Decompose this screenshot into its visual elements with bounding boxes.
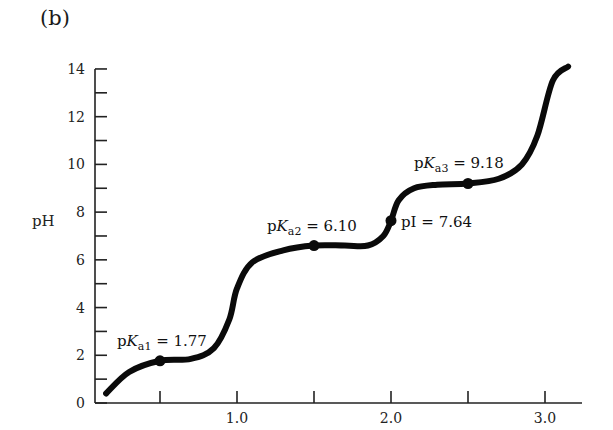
y-tick-label: 4 — [76, 300, 85, 316]
titration-chart: 02468101214 1.02.03.0 pH pKa1 = 1.77pKa2… — [0, 0, 613, 430]
annotation-label: pI = 7.64 — [401, 213, 472, 231]
x-tick-label: 1.0 — [226, 410, 248, 426]
y-axis — [95, 69, 107, 403]
key-point-marker — [155, 355, 166, 366]
annotation-label: pKa1 = 1.77 — [117, 332, 207, 353]
key-point-marker — [463, 178, 474, 189]
y-tick-label: 8 — [76, 204, 85, 220]
y-tick-label: 14 — [67, 61, 85, 77]
x-tick-label: 3.0 — [534, 410, 556, 426]
y-tick-label: 6 — [76, 252, 85, 268]
y-tick-label: 2 — [76, 347, 85, 363]
x-tick-labels: 1.02.03.0 — [226, 410, 556, 426]
key-point-marker — [309, 240, 320, 251]
y-tick-label: 0 — [76, 395, 85, 411]
x-axis — [95, 391, 582, 403]
annotation-label: pKa2 = 6.10 — [267, 217, 357, 238]
y-tick-label: 10 — [67, 156, 85, 172]
y-tick-label: 12 — [67, 109, 85, 125]
y-axis-title: pH — [32, 212, 55, 230]
annotation-label: pKa3 = 9.18 — [414, 154, 504, 175]
key-point-marker — [386, 215, 397, 226]
y-tick-labels: 02468101214 — [67, 61, 85, 411]
x-tick-label: 2.0 — [380, 410, 402, 426]
